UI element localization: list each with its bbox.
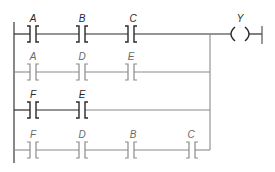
label-r4-d: D [78, 129, 85, 140]
label-r2-a: A [29, 51, 37, 62]
label-r1-b: B [79, 13, 86, 24]
label-r4-f: F [30, 129, 37, 140]
coil-y-icon [231, 27, 249, 41]
label-r1-a: A [29, 13, 37, 24]
label-r4-b: B [130, 129, 137, 140]
label-coil-y: Y [237, 13, 245, 24]
label-r4-c: C [187, 129, 195, 140]
label-r2-e: E [128, 51, 135, 62]
label-r3-f: F [30, 89, 37, 100]
label-r3-e: E [79, 89, 86, 100]
label-r1-c: C [129, 13, 137, 24]
label-r2-d: D [78, 51, 85, 62]
ladder-diagram: A B C Y A D E F E [0, 0, 275, 172]
